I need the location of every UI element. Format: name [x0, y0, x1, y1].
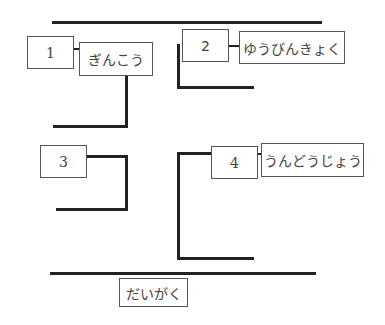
place-label-undoujou: うんどうじょう [264, 150, 362, 170]
place-box-undoujou: うんどうじょう [261, 143, 364, 177]
number-box-1: 1 [27, 36, 74, 69]
number-box-2: 2 [182, 29, 229, 62]
block-1-vertical [125, 75, 128, 128]
place-label-yuubinkyoku: ゆうびんきょく [243, 38, 341, 58]
block-1-horizontal [53, 125, 128, 128]
number-box-4: 4 [211, 146, 258, 179]
number-label-3: 3 [59, 154, 68, 170]
block-3-horizontal [56, 208, 128, 211]
block-4-top [177, 152, 213, 155]
place-box-ginkou: ぎんこう [79, 42, 153, 76]
number-label-4: 4 [230, 155, 239, 171]
top-road-line [52, 21, 322, 24]
number-label-2: 2 [201, 38, 210, 54]
place-label-daigaku: だいがく [126, 283, 182, 303]
place-box-daigaku: だいがく [119, 278, 188, 307]
place-box-yuubinkyoku: ゆうびんきょく [239, 31, 345, 64]
block-3-top [87, 155, 127, 158]
block-2-vertical [177, 44, 180, 89]
block-4-vertical [177, 152, 180, 259]
place-label-ginkou: ぎんこう [88, 49, 144, 69]
bottom-road-line [50, 272, 316, 275]
block-2-horizontal [177, 86, 254, 89]
number-box-3: 3 [40, 145, 87, 178]
block-3-vertical [125, 155, 128, 211]
number-label-1: 1 [46, 45, 55, 61]
block-4-horizontal [177, 257, 254, 260]
